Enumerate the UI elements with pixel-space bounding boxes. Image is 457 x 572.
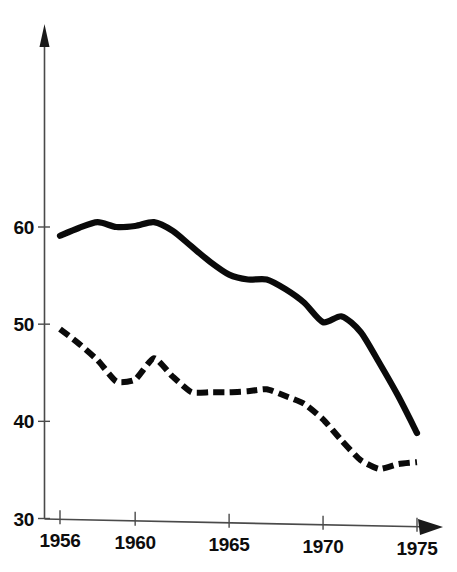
y-tick-label: 40 [13, 411, 34, 432]
solid-line-series [60, 222, 417, 433]
up-arrow-icon [40, 24, 50, 47]
x-tick-label: 1960 [115, 532, 156, 553]
y-tick-label: 30 [13, 509, 34, 530]
line-chart: 30405060 19561960196519701975 [0, 0, 457, 572]
chart-canvas: 30405060 19561960196519701975 [0, 0, 457, 572]
x-axis-line [45, 519, 433, 527]
series-group [60, 222, 417, 469]
x-tick-group: 19561960196519701975 [39, 510, 438, 558]
right-arrow-icon [418, 519, 443, 535]
y-tick-label: 50 [13, 314, 34, 335]
dashed-line-series [60, 329, 417, 469]
x-tick-label: 1975 [396, 538, 438, 559]
x-tick-label: 1965 [209, 534, 251, 555]
y-tick-label: 60 [13, 217, 34, 238]
x-tick-label: 1970 [303, 536, 344, 557]
x-tick-label: 1956 [39, 530, 80, 551]
